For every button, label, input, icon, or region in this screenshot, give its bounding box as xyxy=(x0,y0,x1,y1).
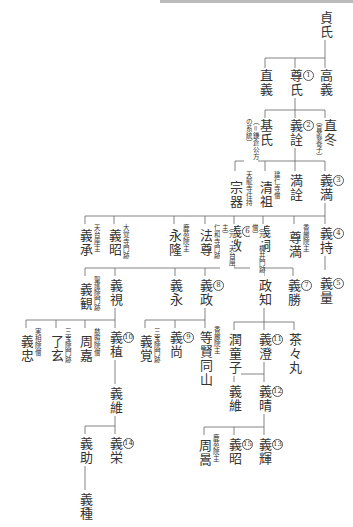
node-yoshikatsu: 義勝 xyxy=(286,278,300,308)
node-yoshiteru: 義輝 xyxy=(257,437,271,467)
node-yoshikazu: 義量 xyxy=(318,276,332,306)
node-sukehide: 義助 xyxy=(78,436,92,466)
note-gichu: 実相院僧 xyxy=(33,328,40,356)
shogun-number-13: 13 xyxy=(272,439,283,450)
node-yoshitane: 義稙 xyxy=(108,330,122,360)
shogun-number-5: 5 xyxy=(333,278,344,289)
note-sonman: 香厳院主 xyxy=(301,224,308,252)
shogun-number-12: 12 xyxy=(272,386,283,397)
node-sadauji: 貞氏 xyxy=(318,10,332,40)
node-yoshihide: 義栄 xyxy=(108,436,122,466)
note-ryogen: 三宝院門跡 xyxy=(63,328,70,363)
note-token: 香厳院主 xyxy=(212,326,219,354)
note-gisho: 天台座主 xyxy=(92,224,99,252)
node-yoshimitsu: 義満 xyxy=(318,173,332,203)
node-hoson: 法尊 xyxy=(198,228,212,258)
node-gisho: 義承 xyxy=(78,228,92,258)
node-gichu: 義忠 xyxy=(19,334,33,364)
shogun-number-8: 8 xyxy=(213,280,224,291)
node-tadayoshi: 直義 xyxy=(258,68,272,98)
node-motouji: 基氏 xyxy=(258,118,272,148)
node-takayoshi: 高義 xyxy=(318,68,332,98)
note-eiryu: 鹿苑院主 xyxy=(181,224,188,252)
node-masatomo: 政知 xyxy=(257,278,271,308)
node-yoshitsuna: 義維 xyxy=(108,386,122,416)
node-junndoji: 潤童子 xyxy=(227,332,241,376)
note-motouji: （＝鎌倉公方の系統） xyxy=(244,118,258,164)
note-yoshinori: （元・天台座主） xyxy=(220,224,234,274)
shogun-number-15: 15 xyxy=(242,439,253,450)
node-yoshizumi: 義澄 xyxy=(257,332,271,362)
node-tadafuyu: 直冬 xyxy=(322,118,336,148)
node-yoshiharu: 義晴 xyxy=(257,384,271,414)
node-yoshimasa: 義政 xyxy=(198,278,212,308)
note-tadafuyu: （直義養子） xyxy=(314,118,321,158)
shogun-number-7: 7 xyxy=(301,280,312,291)
node-gikan: 義観 xyxy=(78,282,92,312)
node-mitsuakira: 満詮 xyxy=(288,173,302,203)
node-shuko: 周暠 xyxy=(197,438,211,468)
node-yoshiaki: 義昭 xyxy=(227,437,241,467)
node-yoshiakira: 義詮 xyxy=(288,118,302,148)
node-shuka: 周嘉 xyxy=(78,334,92,364)
shogun-number-4: 4 xyxy=(333,228,344,239)
node-seiso: 清祖 xyxy=(258,180,272,210)
shogun-number-9: 9 xyxy=(183,332,194,343)
node-ryogen: 了玄 xyxy=(49,334,63,364)
node-gikaku: 義覚 xyxy=(138,334,152,364)
node-gie: 義永 xyxy=(168,278,182,308)
node-eiryu: 永隆 xyxy=(167,228,181,258)
node-chachamaru: 茶々丸 xyxy=(287,332,301,376)
note-gikaku: 三宝院門跡 xyxy=(152,328,159,363)
note-seiso: 建仁寺僧 xyxy=(272,171,279,199)
node-token: 等賢同山 xyxy=(198,330,212,388)
node-yoshitsuna2: 義維 xyxy=(227,384,241,414)
shogun-number-3: 3 xyxy=(333,175,344,186)
node-yoshihisa: 義尚 xyxy=(168,330,182,360)
shogun-number-14: 14 xyxy=(123,438,134,449)
note-hoson: 仁和寺門跡 xyxy=(212,224,219,259)
node-yoshimi: 義視 xyxy=(108,278,122,308)
shogun-number-10: 10 xyxy=(123,332,134,343)
node-takauji: 尊氏 xyxy=(288,68,302,98)
node-yoshimochi: 義持 xyxy=(318,226,332,256)
note-yoshitsugu: （元・梶井門跡僧） xyxy=(250,224,264,276)
note-sokki: 天龍寺住持 xyxy=(244,171,251,206)
node-yoshitane2: 義種 xyxy=(78,492,92,522)
shogun-number-2: 2 xyxy=(303,120,314,131)
note-shuko: 鹿苑院主 xyxy=(211,434,218,462)
note-gikan: 聖護院門跡 xyxy=(92,276,99,311)
shogun-number-11: 11 xyxy=(272,334,283,345)
node-gisho2: 義昭 xyxy=(107,228,121,258)
shogun-number-1: 1 xyxy=(303,70,314,81)
note-shuka: 慈照院僧 xyxy=(92,328,99,356)
node-sokki: 宗器 xyxy=(228,180,242,210)
node-sonman: 尊満 xyxy=(287,230,301,260)
note-gisho2: 大覚寺門跡 xyxy=(121,224,128,259)
